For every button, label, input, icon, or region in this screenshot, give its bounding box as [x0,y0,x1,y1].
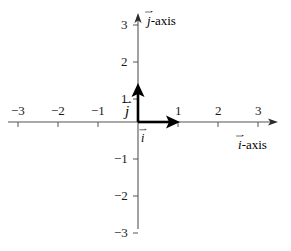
y-axis-ticks [133,25,138,233]
y-tick-label-2: 2 [121,55,128,68]
i-axis-vector-letter: i [238,137,242,151]
x-tick-label--3: −3 [11,104,25,117]
x-axis-name: i-axis [238,137,267,151]
i-unit-vector-letter: i [141,131,144,144]
y-tick-label--3: −3 [114,226,128,239]
x-tick-label--2: −2 [51,104,65,117]
j-axis-letter-glyph: j [147,13,151,28]
x-tick-label-3: 3 [255,104,262,117]
i-axis-letter-glyph: i [238,137,242,152]
unit-vector-j-label: j [125,103,129,119]
unit-vector-j [132,83,145,122]
y-tick-label-3: 3 [121,18,128,31]
y-axis-name: j-axis [147,13,176,27]
y-axis-name-suffix: -axis [151,13,176,28]
j-unit-vector-letter: j [125,103,129,119]
i-unit-letter-glyph: i [141,131,144,145]
unit-vector-i [138,116,180,129]
y-tick-label--2: −2 [114,189,128,202]
j-unit-letter-glyph: j [125,103,129,119]
unit-vector-i-label: i [141,131,144,144]
x-tick-label-2: 2 [215,104,222,117]
x-tick-label--1: −1 [91,104,105,117]
y-tick-label--1: −1 [114,152,128,165]
j-axis-vector-letter: j [147,13,151,27]
axes-canvas [0,0,291,251]
x-axis-name-suffix: -axis [242,137,267,152]
coordinate-axes-figure: −3 −2 −1 1 2 3 3 2 1 −1 −2 −3 j-axis i-a… [0,0,291,251]
x-tick-label-1: 1 [175,104,182,117]
